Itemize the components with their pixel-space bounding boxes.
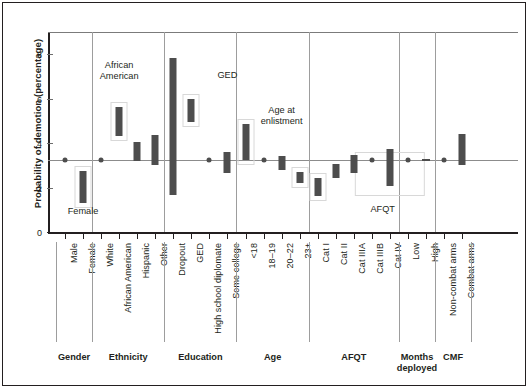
interval-bar (332, 164, 339, 178)
group-divider (399, 32, 400, 232)
interval-bar (459, 134, 466, 165)
interval-bar (134, 142, 141, 162)
chart-annotation: GED (217, 70, 237, 81)
category-label: 20–22 (285, 243, 295, 269)
interval-bar (350, 155, 357, 173)
x-tick (246, 232, 247, 239)
reference-point (63, 157, 68, 162)
y-tick-label: 2 (37, 184, 42, 194)
chart-annotation: Age at enlistment (261, 105, 303, 127)
flat-mark (422, 159, 430, 162)
x-tick (137, 232, 138, 239)
y-tick-label: 6 (37, 95, 42, 105)
category-label: Male (69, 243, 79, 263)
x-tick (426, 232, 427, 239)
category-label: 18–19 (267, 243, 277, 269)
x-tick (155, 232, 156, 239)
group-divider (236, 32, 237, 232)
interval-bar (242, 124, 249, 160)
group-divider (164, 32, 165, 232)
category-label: Low (411, 243, 421, 260)
interval-bar (116, 107, 123, 136)
label-band-separator (164, 242, 165, 342)
reference-point (99, 157, 104, 162)
interval-bar (152, 135, 159, 165)
category-label: White (105, 243, 115, 267)
reference-point (369, 157, 374, 162)
x-tick (318, 232, 319, 239)
interval-bar (296, 172, 303, 183)
plot-top-rule (48, 32, 518, 33)
y-tick-label: 0 (37, 228, 42, 238)
y-tick-label: 4 (37, 139, 42, 149)
category-label: Cat IIIB (375, 243, 385, 274)
category-label: African American (123, 243, 133, 313)
reference-point (442, 157, 447, 162)
category-label: <18 (249, 243, 259, 259)
x-tick (173, 232, 174, 239)
x-tick (282, 232, 283, 239)
interval-bar (188, 99, 195, 122)
label-band-separator (435, 242, 436, 342)
x-tick-group (48, 232, 518, 242)
x-tick (83, 232, 84, 239)
group-name: Education (178, 352, 222, 363)
x-tick (65, 232, 66, 239)
reference-point (405, 157, 410, 162)
group-name: Gender (58, 352, 90, 363)
category-label: Non-combat arms (448, 243, 458, 316)
chart-annotation: African American (100, 60, 139, 82)
x-tick (101, 232, 102, 239)
reference-point (261, 157, 266, 162)
x-tick (191, 232, 192, 239)
category-label: Hispanic (141, 243, 151, 278)
x-tick (336, 232, 337, 239)
chart-annotation: AFQT (370, 204, 395, 215)
group-divider (435, 32, 436, 232)
group-divider (309, 32, 310, 232)
y-tick-2: 2 (47, 188, 53, 189)
chart-root: Probability of demotion (percentage) 024… (0, 0, 529, 389)
interval-bar (314, 178, 321, 196)
chart-annotation: Female (68, 206, 99, 217)
category-label: Cat I (321, 243, 331, 263)
x-tick (264, 232, 265, 239)
label-band-separator (399, 242, 400, 342)
x-tick (408, 232, 409, 239)
group-name: CMF (443, 352, 463, 363)
group-name: AFQT (341, 352, 366, 363)
group-name: Months deployed (397, 352, 437, 374)
group-name: Ethnicity (109, 352, 148, 363)
interval-bar (278, 156, 285, 170)
label-band-separator (471, 242, 472, 342)
plot-area: 02468 FemaleAfrican AmericanGEDAge at en… (48, 32, 518, 232)
category-label: Cat IIIA (357, 243, 367, 274)
category-label: Dropout (177, 243, 187, 276)
category-label: High school diplomate (213, 243, 223, 334)
y-tick-4: 4 (47, 143, 53, 144)
category-label: Cat II (339, 243, 349, 265)
interval-bar (80, 171, 87, 203)
interval-bar (224, 152, 231, 174)
x-tick (354, 232, 355, 239)
x-tick (372, 232, 373, 239)
x-tick (119, 232, 120, 239)
x-tick (209, 232, 210, 239)
label-band-separator (56, 242, 57, 342)
y-tick-6: 6 (47, 99, 53, 100)
reference-point (207, 157, 212, 162)
group-divider (92, 32, 93, 232)
category-label: GED (195, 243, 205, 263)
x-tick (300, 232, 301, 239)
label-band-separator (236, 242, 237, 342)
x-tick (227, 232, 228, 239)
interval-bar (386, 149, 393, 186)
y-tick-8: 8 (47, 54, 53, 55)
group-name: Age (264, 352, 281, 363)
x-tick (444, 232, 445, 239)
y-axis-line (48, 32, 50, 233)
y-tick-label: 8 (37, 50, 42, 60)
interval-bar (170, 58, 177, 196)
label-band-separator (92, 242, 93, 342)
x-tick (390, 232, 391, 239)
